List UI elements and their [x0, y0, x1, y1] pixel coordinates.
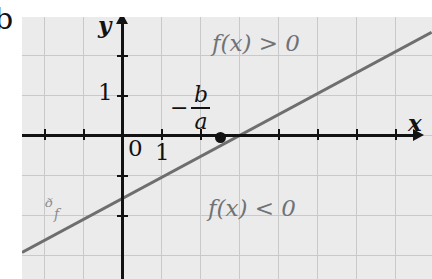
x-axis-tick — [278, 129, 280, 140]
y-axis — [121, 23, 124, 279]
root-value-label: − b a — [170, 83, 210, 133]
grid-line-vertical — [278, 17, 279, 279]
x-axis-tick — [395, 129, 397, 140]
figure-canvas: b — [0, 0, 432, 279]
fraction-numerator: b — [194, 83, 208, 106]
x-axis-tick — [317, 129, 319, 140]
x-intercept-point — [215, 132, 226, 143]
y-axis-tick — [117, 55, 128, 57]
x-unit-tick-label: 1 — [155, 139, 170, 165]
y-axis-tick — [117, 175, 128, 177]
positive-region-label: f(x) > 0 — [212, 30, 300, 56]
x-axis-tick — [44, 129, 46, 140]
fraction: b a — [191, 83, 210, 133]
grid-line-vertical — [83, 17, 84, 279]
grid-line-horizontal — [22, 95, 432, 96]
curve-name-subscript: f — [54, 206, 59, 222]
grid-line-vertical — [356, 17, 357, 279]
y-unit-tick-label: 1 — [98, 79, 113, 105]
minus-sign: − — [170, 97, 188, 119]
clipped-edge-glyph: b — [0, 2, 20, 36]
grid-line-horizontal — [22, 255, 432, 256]
grid-line-vertical — [317, 17, 318, 279]
y-axis-label: y — [98, 17, 111, 38]
plot-area: y x 0 1 1 − b a f(x) > 0 f(x) < 0 ᶞf — [22, 17, 432, 279]
grid-line-vertical — [200, 17, 201, 279]
negative-region-label: f(x) < 0 — [208, 195, 296, 221]
x-axis-label: x — [408, 109, 422, 136]
x-axis-tick — [356, 129, 358, 140]
curve-name-label: ᶞf — [44, 195, 59, 222]
y-axis-tick — [117, 215, 128, 217]
y-axis-tick — [117, 95, 128, 97]
fraction-denominator: a — [194, 110, 207, 133]
y-axis-arrow — [116, 17, 128, 24]
grid-line-horizontal — [22, 175, 432, 176]
curve-name-script: ᶞ — [44, 195, 54, 219]
grid-line-vertical — [395, 17, 396, 279]
x-axis-tick — [83, 129, 85, 140]
grid-line-vertical — [239, 17, 240, 279]
origin-label: 0 — [128, 135, 143, 161]
